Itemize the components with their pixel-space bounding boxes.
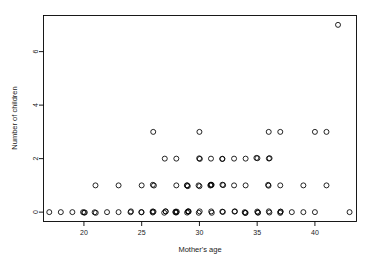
- x-tick-label: 35: [253, 229, 261, 236]
- x-tick-label: 20: [80, 229, 88, 236]
- y-tick-label: 6: [32, 50, 39, 54]
- x-tick-label: 25: [138, 229, 146, 236]
- y-tick-label: 4: [32, 103, 39, 107]
- x-tick-label: 30: [196, 229, 204, 236]
- y-tick-label: 0: [32, 210, 39, 214]
- figure-background: [0, 0, 371, 267]
- x-tick-label: 40: [311, 229, 319, 236]
- y-axis-title: Number of children: [10, 86, 19, 149]
- chart-canvas: 2025303540 0246 Mother's age Number of c…: [0, 0, 371, 267]
- scatter-plot-figure: 2025303540 0246 Mother's age Number of c…: [0, 0, 371, 267]
- y-tick-label: 2: [32, 157, 39, 161]
- x-axis-title: Mother's age: [178, 245, 221, 254]
